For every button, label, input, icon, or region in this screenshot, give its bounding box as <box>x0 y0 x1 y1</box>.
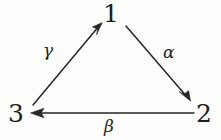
edge-alpha-arrowhead <box>179 91 191 102</box>
diagram-canvas: 1 2 3 α β γ <box>0 0 221 140</box>
edge-alpha <box>126 26 191 101</box>
edge-gamma-line <box>33 26 100 106</box>
edge-label-alpha: α <box>163 44 174 61</box>
node-label-2: 2 <box>196 101 212 126</box>
edge-alpha-line <box>126 26 188 98</box>
edge-label-beta: β <box>104 118 114 135</box>
edge-gamma <box>33 23 102 105</box>
node-label-3: 3 <box>8 101 24 126</box>
node-label-1: 1 <box>103 1 119 26</box>
edge-label-gamma: γ <box>43 42 53 59</box>
